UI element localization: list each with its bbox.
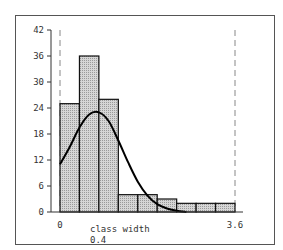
histogram-chart: 06121824303642 03.6 class width 0.4 <box>0 0 283 250</box>
x-axis-label: class width <box>90 224 150 234</box>
y-axis: 06121824303642 <box>33 25 51 217</box>
y-tick-label: 0 <box>39 207 44 217</box>
x-tick-label: 0 <box>57 220 62 230</box>
histogram-bar <box>79 56 98 212</box>
y-tick-label: 36 <box>33 51 44 61</box>
y-tick-label: 12 <box>33 155 44 165</box>
x-axis-sublabel: 0.4 <box>90 235 106 245</box>
y-tick-label: 42 <box>33 25 44 35</box>
y-tick-label: 6 <box>39 181 44 191</box>
histogram-bar <box>118 195 137 212</box>
y-tick-label: 24 <box>33 103 44 113</box>
histogram-bars <box>60 56 235 212</box>
y-tick-label: 18 <box>33 129 44 139</box>
histogram-bar <box>216 203 235 212</box>
y-tick-label: 30 <box>33 77 44 87</box>
x-tick-label: 3.6 <box>227 220 243 230</box>
histogram-bar <box>99 99 118 212</box>
histogram-bar <box>196 203 215 212</box>
